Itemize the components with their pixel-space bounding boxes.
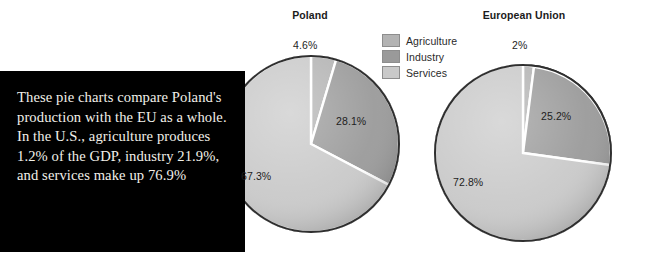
pie-chart-figure: Poland 4.6% 28.1% 67.3% (0, 0, 649, 270)
legend-item-services: Services (382, 65, 457, 80)
legend-swatch-services-icon (382, 66, 400, 79)
poland-pie-chart (220, 53, 402, 235)
caption-text: These pie charts compare Poland's produc… (17, 88, 232, 186)
legend-label-agriculture: Agriculture (406, 35, 457, 47)
eu-label-services: 72.8% (453, 176, 483, 188)
poland-label-industry: 28.1% (336, 115, 366, 127)
poland-chart-title: Poland (268, 9, 352, 21)
poland-label-agriculture: 4.6% (293, 39, 317, 51)
legend-label-industry: Industry (406, 51, 444, 63)
eu-chart-title: European Union (468, 9, 580, 21)
chart-legend: Agriculture Industry Services (382, 33, 457, 81)
legend-item-industry: Industry (382, 49, 457, 64)
legend-label-services: Services (406, 67, 447, 79)
legend-swatch-industry-icon (382, 50, 400, 63)
legend-item-agriculture: Agriculture (382, 33, 457, 48)
poland-label-services: 67.3% (241, 170, 271, 182)
legend-swatch-agriculture-icon (382, 34, 400, 47)
eu-pie-chart (432, 62, 614, 244)
eu-label-industry: 25.2% (541, 110, 571, 122)
eu-label-agriculture: 2% (512, 39, 527, 51)
caption-panel: These pie charts compare Poland's produc… (0, 71, 245, 252)
